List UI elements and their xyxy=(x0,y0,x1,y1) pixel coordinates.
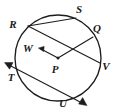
geometry-canvas: R S Q W P V T U xyxy=(0,0,117,110)
point-label-Q: Q xyxy=(93,22,101,34)
point-label-W: W xyxy=(23,42,34,54)
point-label-P: P xyxy=(52,63,59,75)
point-label-T: T xyxy=(8,71,16,83)
arrowhead-u-icon xyxy=(79,98,87,106)
point-label-R: R xyxy=(8,18,16,30)
circle-geometry-figure: R S Q W P V T U xyxy=(0,0,117,110)
arrowhead-w-icon xyxy=(38,46,44,51)
point-label-U: U xyxy=(59,97,68,109)
radius-p-q xyxy=(58,37,93,58)
chord-r-v xyxy=(28,26,100,63)
secant-t-u xyxy=(7,64,84,104)
center-point-dot xyxy=(57,57,60,60)
point-label-V: V xyxy=(102,60,111,72)
point-label-S: S xyxy=(76,3,82,15)
